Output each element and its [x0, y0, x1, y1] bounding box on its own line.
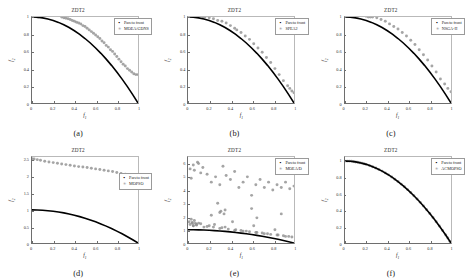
x-tick-d-3: [97, 241, 98, 243]
x-tick-label-c-5: 1: [451, 106, 453, 111]
y-tick-label-b-4: 0.8: [180, 31, 185, 36]
y-tick-d-1: [31, 228, 33, 229]
x-tick-label-a-4: 0.8: [115, 106, 120, 111]
x-axis-label-sub: 1: [398, 256, 400, 260]
y-tick-label-c-2: 0.4: [336, 66, 341, 71]
y-tick-d-2: [31, 211, 33, 212]
legend-label-d-1: MOPSO: [129, 181, 143, 187]
x-tick-b-2: [232, 101, 233, 103]
legend-label-a-1: MOEA/GDNS: [124, 26, 149, 32]
subplot-a: ZDT200.20.40.60.8100.20.40.60.81f1f2▪Par…: [0, 0, 156, 140]
y-tick-label-d-1: 0.5: [24, 225, 29, 230]
legend-f: ▪Pareto front✳ACMOPSO: [431, 158, 465, 175]
x-tick-label-d-3: 0.6: [93, 246, 98, 251]
legend-row-d-1: ✳MOPSO: [122, 181, 149, 187]
y-tick-c-1: [344, 87, 346, 88]
legend-row-e-1: ✳MOEA/D: [278, 166, 305, 172]
y-tick-label-e-4: 4: [183, 187, 185, 192]
y-tick-label-f-3: 0.6: [336, 191, 341, 196]
x-tick-label-b-2: 0.4: [228, 106, 233, 111]
subplot-inner-b: ZDT200.20.40.60.8100.20.40.60.81f1f2▪Par…: [156, 0, 312, 140]
y-tick-label-d-4: 2: [27, 174, 29, 179]
y-axis-label-base: f: [321, 60, 327, 62]
y-tick-e-1: [188, 231, 190, 232]
subplot-caption-e: (e): [156, 269, 312, 278]
x-tick-label-e-0: 0: [186, 246, 188, 251]
x-tick-d-4: [118, 241, 119, 243]
x-tick-a-4: [118, 101, 119, 103]
y-tick-e-5: [188, 177, 190, 178]
x-tick-e-3: [253, 241, 254, 243]
y-tick-f-4: [344, 178, 346, 179]
legend-label-b-1: SPEA2: [285, 26, 297, 32]
y-tick-label-c-3: 0.6: [336, 49, 341, 54]
y-tick-d-4: [31, 177, 33, 178]
x-axis-label-sub: 1: [398, 116, 400, 120]
y-tick-label-e-2: 2: [183, 214, 185, 219]
y-tick-label-c-1: 0.2: [336, 84, 341, 89]
x-tick-label-c-3: 0.6: [406, 106, 411, 111]
y-axis-label-sub: 2: [168, 198, 172, 200]
x-axis-label-a: f1: [83, 112, 86, 120]
x-tick-d-0: [32, 241, 33, 243]
x-tick-label-b-4: 0.8: [271, 106, 276, 111]
x-tick-label-f-5: 1: [451, 246, 453, 251]
y-axis-label-e: f2: [164, 198, 172, 201]
x-tick-label-e-4: 0.8: [271, 246, 276, 251]
plot-title-c: ZDT2: [313, 7, 469, 13]
x-tick-label-b-5: 1: [294, 106, 296, 111]
subplot-caption-d: (d): [0, 269, 156, 278]
y-axis-label-base: f: [164, 200, 170, 202]
x-tick-label-a-3: 0.6: [93, 106, 98, 111]
y-tick-label-f-0: 0: [340, 242, 342, 247]
y-tick-label-d-2: 1: [27, 208, 29, 213]
x-axis-label-b: f1: [240, 112, 243, 120]
subplot-caption-b: (b): [156, 129, 312, 138]
x-tick-e-1: [210, 241, 211, 243]
x-tick-e-0: [188, 241, 189, 243]
x-tick-label-e-5: 1: [294, 246, 296, 251]
x-tick-label-d-2: 0.4: [72, 246, 77, 251]
y-axis-label-b: f2: [164, 58, 172, 61]
legend-row-a-1: ✳MOEA/GDNS: [117, 26, 149, 32]
y-axis-label-base: f: [321, 200, 327, 202]
subplot-inner-f: ZDT200.20.40.60.8100.20.40.60.81f1f2▪Par…: [313, 140, 469, 280]
x-tick-label-e-3: 0.6: [249, 246, 254, 251]
legend-row-b-1: ✳SPEA2: [278, 26, 305, 32]
legend-dot-marker-icon: ▪: [117, 21, 122, 26]
x-axis-label-d: f1: [83, 252, 86, 260]
legend-star-marker-icon: ✳: [278, 168, 283, 172]
y-tick-b-3: [188, 52, 190, 53]
y-tick-label-a-1: 0.2: [24, 84, 29, 89]
legend-star-marker-icon: ✳: [117, 28, 122, 32]
x-tick-b-1: [210, 101, 211, 103]
series-layer-d: [32, 157, 138, 243]
y-tick-label-e-3: 3: [183, 201, 185, 206]
subplot-caption-a: (a): [0, 129, 156, 138]
y-axis-label-base: f: [8, 60, 14, 62]
plot-title-b: ZDT2: [156, 7, 312, 13]
y-tick-a-1: [31, 87, 33, 88]
x-axis-label-sub: 1: [241, 116, 243, 120]
y-tick-label-a-4: 0.8: [24, 31, 29, 36]
y-tick-label-f-2: 0.4: [336, 208, 341, 213]
x-tick-label-f-1: 0.2: [363, 246, 368, 251]
x-tick-label-c-4: 0.8: [427, 106, 432, 111]
y-tick-label-c-5: 1: [340, 14, 342, 19]
y-tick-label-b-5: 1: [183, 14, 185, 19]
x-tick-label-d-5: 1: [138, 246, 140, 251]
x-tick-f-0: [345, 241, 346, 243]
y-tick-label-e-0: 0: [183, 242, 185, 247]
x-tick-a-1: [54, 101, 55, 103]
legend-dot-marker-icon: ▪: [122, 176, 127, 181]
legend-e: ▪Pareto front✳MOEA/D: [275, 158, 309, 175]
x-axis-label-e: f1: [240, 252, 243, 260]
legend-dot-marker-icon: ▪: [278, 161, 283, 166]
legend-row-f-1: ✳ACMOPSO: [434, 166, 461, 172]
y-tick-c-4: [344, 35, 346, 36]
y-tick-e-6: [188, 164, 190, 165]
x-tick-d-1: [54, 241, 55, 243]
y-axis-label-sub: 2: [325, 198, 329, 200]
x-tick-c-2: [388, 101, 389, 103]
y-tick-label-e-5: 5: [183, 174, 185, 179]
